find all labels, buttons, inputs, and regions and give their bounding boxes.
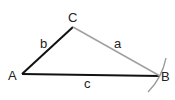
side-label-c: c [84, 76, 91, 91]
vertex-label-c: C [68, 10, 77, 25]
vertex-label-b: B [161, 69, 170, 84]
side-c-line [22, 74, 160, 76]
vertex-label-a: A [8, 68, 17, 83]
side-a-line [73, 27, 160, 76]
side-label-b: b [40, 36, 47, 51]
side-label-a: a [114, 36, 122, 51]
side-b-line [22, 27, 73, 74]
triangle-diagram: A B C a b c [0, 0, 175, 100]
